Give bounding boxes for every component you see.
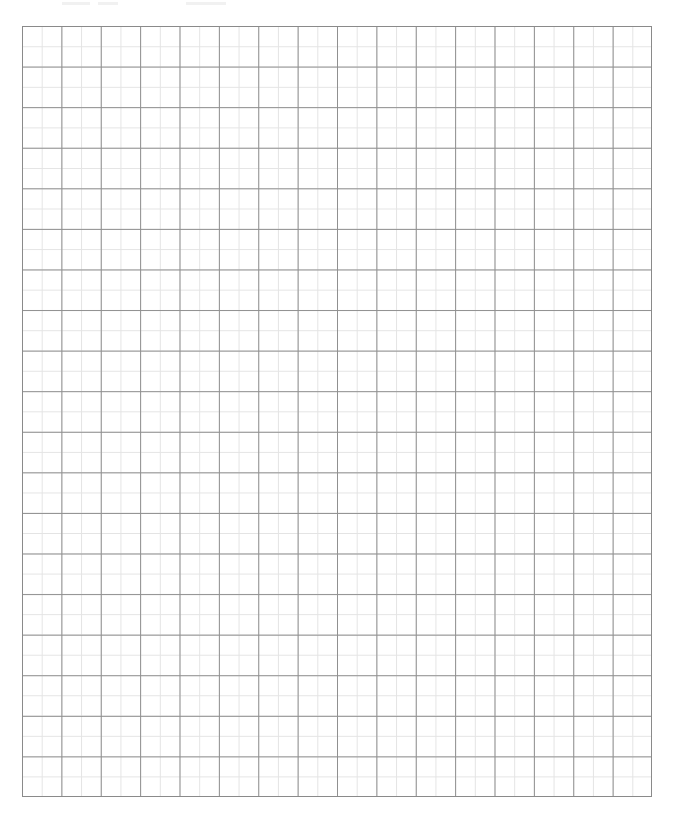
page <box>0 0 673 823</box>
scan-artifact <box>186 2 226 5</box>
graph-paper-grid <box>22 26 652 797</box>
scan-artifact <box>62 2 90 5</box>
scan-artifact <box>98 2 118 5</box>
